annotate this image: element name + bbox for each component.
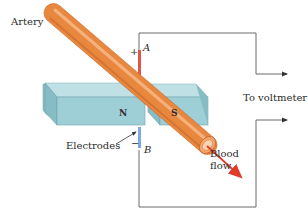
south-pole-label: S: [171, 108, 178, 118]
flowmeter-diagram: Artery + A N S Electrodes − B Blood flow…: [0, 0, 308, 217]
artery-tube: [44, 3, 219, 156]
minus-sign: −: [131, 138, 139, 149]
electrodes-label: Electrodes: [66, 140, 120, 151]
blood-flow-label-line2: flow: [210, 160, 232, 171]
blood-flow-label-line1: Blood: [210, 148, 240, 159]
to-voltmeter-label: To voltmeter: [243, 92, 307, 103]
top-wire: [139, 33, 287, 74]
plus-sign: +: [130, 46, 138, 57]
north-pole-label: N: [119, 108, 127, 118]
artery-label: Artery: [10, 16, 44, 27]
electrode-b-label: B: [143, 144, 151, 155]
electrode-a-label: A: [142, 42, 150, 53]
